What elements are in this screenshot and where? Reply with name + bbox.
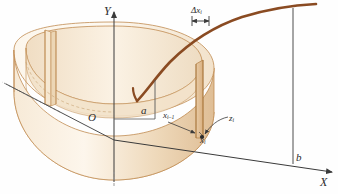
label-delta-x-sub: i <box>200 9 202 15</box>
label-x-i-sub: i <box>204 139 206 145</box>
delta-x-measure <box>192 16 209 26</box>
shell-element-slab <box>196 60 203 138</box>
label-z-i: zi <box>229 114 234 124</box>
figure-container: Y X O a b Δxi xi–1 xi zi <box>0 0 338 194</box>
label-a: a <box>141 105 147 116</box>
origin-label: O <box>88 112 96 123</box>
label-x-previous: xi–1 <box>163 111 174 121</box>
y-axis-label: Y <box>104 5 111 17</box>
label-delta-x-main: Δx <box>191 5 200 15</box>
label-delta-x: Δxi <box>191 6 202 16</box>
cylindrical-shell-figure <box>0 0 338 194</box>
x-axis-label: X <box>320 176 327 188</box>
label-x-i: xi <box>200 136 206 146</box>
label-b: b <box>296 152 302 163</box>
label-z-i-sub: i <box>233 117 235 123</box>
label-x-previous-sub: i–1 <box>167 114 174 120</box>
shell-cutaway-notch <box>45 30 56 106</box>
